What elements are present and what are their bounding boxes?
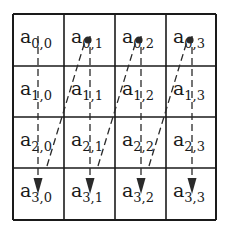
diagonal-link-0-to-1 (47, 38, 86, 166)
start-dot-icon (186, 36, 193, 43)
start-dot-icon (135, 36, 142, 43)
arrowhead-down-icon (34, 178, 43, 194)
arrowhead-down-icon (86, 178, 95, 194)
traversal-arrows (0, 0, 226, 232)
diagonal-link-1-to-2 (98, 38, 137, 166)
arrowhead-down-icon (137, 178, 146, 194)
arrowhead-down-icon (188, 178, 197, 194)
diagonal-link-2-to-3 (149, 38, 188, 166)
matrix-diagram: a0,0a0,1a0,2a0,3a1,0a1,1a1,2a1,3a2,0a2,1… (0, 0, 226, 232)
start-dot-icon (84, 36, 91, 43)
